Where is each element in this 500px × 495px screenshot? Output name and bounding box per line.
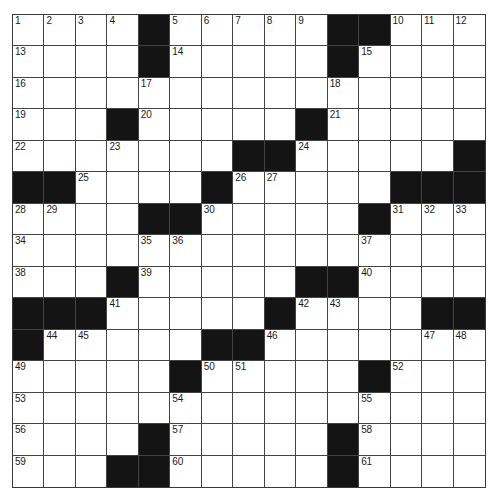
grid-cell[interactable]: [202, 393, 233, 424]
grid-cell[interactable]: 58: [359, 424, 390, 455]
grid-cell[interactable]: [76, 393, 107, 424]
grid-cell[interactable]: [170, 172, 201, 203]
grid-cell[interactable]: 7: [233, 15, 264, 46]
grid-cell[interactable]: [422, 141, 453, 172]
grid-cell[interactable]: 47: [422, 330, 453, 361]
grid-cell[interactable]: 31: [391, 204, 422, 235]
grid-cell[interactable]: [202, 298, 233, 329]
grid-cell[interactable]: [454, 361, 485, 392]
grid-cell[interactable]: [202, 141, 233, 172]
grid-cell[interactable]: [202, 46, 233, 77]
grid-cell[interactable]: 49: [13, 361, 44, 392]
grid-cell[interactable]: [328, 204, 359, 235]
grid-cell[interactable]: [422, 46, 453, 77]
grid-cell[interactable]: 17: [139, 78, 170, 109]
grid-cell[interactable]: [233, 424, 264, 455]
grid-cell[interactable]: [265, 393, 296, 424]
grid-cell[interactable]: 1: [13, 15, 44, 46]
grid-cell[interactable]: 22: [13, 141, 44, 172]
grid-cell[interactable]: 36: [170, 235, 201, 266]
grid-cell[interactable]: 13: [13, 46, 44, 77]
grid-cell[interactable]: [44, 267, 75, 298]
grid-cell[interactable]: 9: [296, 15, 327, 46]
grid-cell[interactable]: 27: [265, 172, 296, 203]
grid-cell[interactable]: [44, 78, 75, 109]
grid-cell[interactable]: 59: [13, 456, 44, 487]
grid-cell[interactable]: 32: [422, 204, 453, 235]
grid-cell[interactable]: [359, 298, 390, 329]
grid-cell[interactable]: 60: [170, 456, 201, 487]
grid-cell[interactable]: [265, 235, 296, 266]
grid-cell[interactable]: 45: [76, 330, 107, 361]
grid-cell[interactable]: 53: [13, 393, 44, 424]
grid-cell[interactable]: [422, 456, 453, 487]
grid-cell[interactable]: [170, 78, 201, 109]
grid-cell[interactable]: [233, 298, 264, 329]
grid-cell[interactable]: 42: [296, 298, 327, 329]
grid-cell[interactable]: [422, 109, 453, 140]
grid-cell[interactable]: [454, 393, 485, 424]
grid-cell[interactable]: 39: [139, 267, 170, 298]
grid-cell[interactable]: [233, 235, 264, 266]
grid-cell[interactable]: [265, 361, 296, 392]
grid-cell[interactable]: [265, 46, 296, 77]
grid-cell[interactable]: [422, 424, 453, 455]
grid-cell[interactable]: 57: [170, 424, 201, 455]
grid-cell[interactable]: [76, 109, 107, 140]
grid-cell[interactable]: 28: [13, 204, 44, 235]
grid-cell[interactable]: [170, 109, 201, 140]
grid-cell[interactable]: [391, 235, 422, 266]
grid-cell[interactable]: 24: [296, 141, 327, 172]
grid-cell[interactable]: [391, 267, 422, 298]
grid-cell[interactable]: 23: [107, 141, 138, 172]
grid-cell[interactable]: 44: [44, 330, 75, 361]
grid-cell[interactable]: [139, 393, 170, 424]
grid-cell[interactable]: [170, 298, 201, 329]
grid-cell[interactable]: 43: [328, 298, 359, 329]
grid-cell[interactable]: 6: [202, 15, 233, 46]
grid-cell[interactable]: [76, 267, 107, 298]
grid-cell[interactable]: [265, 204, 296, 235]
grid-cell[interactable]: [139, 172, 170, 203]
grid-cell[interactable]: [265, 78, 296, 109]
grid-cell[interactable]: [328, 172, 359, 203]
grid-cell[interactable]: [391, 298, 422, 329]
grid-cell[interactable]: [328, 361, 359, 392]
grid-cell[interactable]: [233, 456, 264, 487]
grid-cell[interactable]: [202, 109, 233, 140]
grid-cell[interactable]: 54: [170, 393, 201, 424]
grid-cell[interactable]: 50: [202, 361, 233, 392]
grid-cell[interactable]: 11: [422, 15, 453, 46]
grid-cell[interactable]: [454, 456, 485, 487]
grid-cell[interactable]: [107, 204, 138, 235]
grid-cell[interactable]: [170, 330, 201, 361]
grid-cell[interactable]: [202, 78, 233, 109]
grid-cell[interactable]: [107, 361, 138, 392]
grid-cell[interactable]: 35: [139, 235, 170, 266]
grid-cell[interactable]: [454, 109, 485, 140]
grid-cell[interactable]: [44, 235, 75, 266]
grid-cell[interactable]: [296, 78, 327, 109]
grid-cell[interactable]: [359, 78, 390, 109]
grid-cell[interactable]: [391, 456, 422, 487]
grid-cell[interactable]: 34: [13, 235, 44, 266]
grid-cell[interactable]: [107, 330, 138, 361]
grid-cell[interactable]: [44, 393, 75, 424]
grid-cell[interactable]: 26: [233, 172, 264, 203]
grid-cell[interactable]: [233, 204, 264, 235]
grid-cell[interactable]: [107, 424, 138, 455]
grid-cell[interactable]: [422, 235, 453, 266]
grid-cell[interactable]: [328, 330, 359, 361]
grid-cell[interactable]: [107, 235, 138, 266]
grid-cell[interactable]: [44, 109, 75, 140]
grid-cell[interactable]: [359, 172, 390, 203]
grid-cell[interactable]: 4: [107, 15, 138, 46]
grid-cell[interactable]: [391, 330, 422, 361]
grid-cell[interactable]: [296, 393, 327, 424]
grid-cell[interactable]: [202, 267, 233, 298]
grid-cell[interactable]: 10: [391, 15, 422, 46]
grid-cell[interactable]: 12: [454, 15, 485, 46]
grid-cell[interactable]: [296, 330, 327, 361]
grid-cell[interactable]: 61: [359, 456, 390, 487]
grid-cell[interactable]: [233, 46, 264, 77]
